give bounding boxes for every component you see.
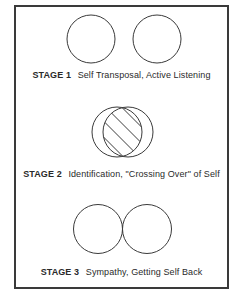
hatch-line: [79, 96, 159, 176]
stage-1-other-circle: [133, 15, 181, 63]
stage-2-circles: [23, 32, 223, 232]
stage-2-description: Identification, "Crossing Over" of Self: [68, 169, 219, 179]
hatch-line: [55, 120, 135, 200]
stage-2-other-circle: [103, 107, 153, 157]
stage-2-caption: STAGE 2 Identification, "Crossing Over" …: [14, 169, 229, 179]
stage-1-self-circle: [67, 15, 115, 63]
stage-3-label: STAGE 3: [41, 267, 80, 277]
stage-1-circles: [67, 15, 181, 63]
stage-2-hatching: [23, 32, 223, 232]
hatch-line: [87, 88, 167, 168]
hatch-line: [31, 144, 111, 224]
stage-1-description: Self Transposal, Active Listening: [78, 70, 211, 80]
hatch-line: [119, 56, 199, 136]
stage-1-label: STAGE 1: [32, 70, 71, 80]
hatch-line: [23, 152, 103, 232]
stage-3-self-circle: [74, 205, 123, 254]
stage-3-circles: [74, 205, 172, 254]
stages-figure: [0, 0, 236, 303]
hatch-line: [135, 40, 215, 120]
stage-3-other-circle: [123, 205, 172, 254]
hatch-line: [47, 128, 127, 208]
stage-2-label: STAGE 2: [23, 169, 62, 179]
stage-2-self-circle: [92, 107, 142, 157]
stage-1-caption: STAGE 1 Self Transposal, Active Listenin…: [14, 70, 229, 80]
hatch-line: [127, 48, 207, 128]
stage-3-caption: STAGE 3 Sympathy, Getting Self Back: [14, 267, 229, 277]
stage-3-description: Sympathy, Getting Self Back: [86, 267, 203, 277]
